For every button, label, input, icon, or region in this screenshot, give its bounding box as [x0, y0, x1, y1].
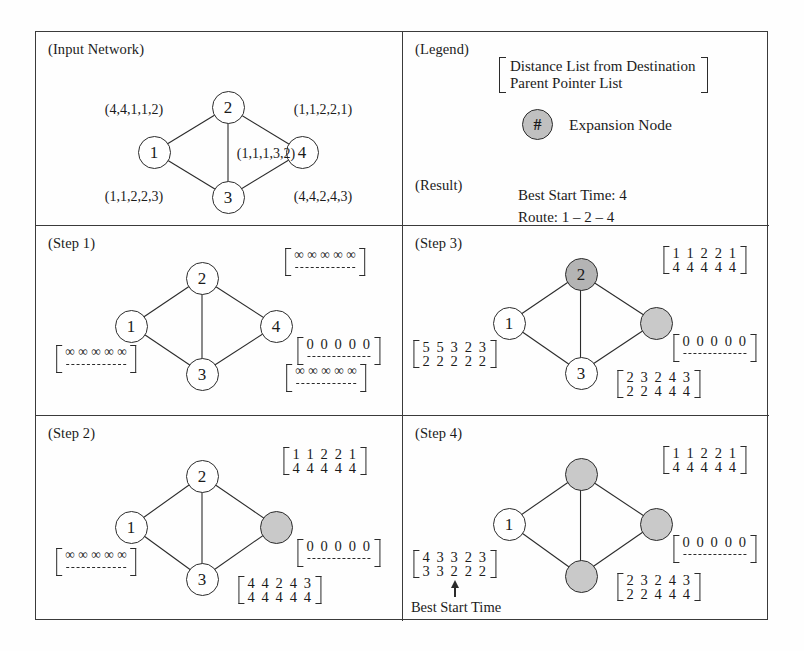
- matrix-rows: ∞ ∞ ∞ ∞ ∞: [62, 345, 130, 373]
- parent-row: [65, 359, 127, 373]
- step-4-node-2[interactable]: [565, 458, 598, 491]
- matrix-rows: 0 0 0 0 0: [303, 539, 374, 567]
- bracket-right: [361, 447, 367, 475]
- distance-row: 4 3 3 2 3: [422, 550, 487, 564]
- panel-title-legend: (Legend): [415, 41, 469, 58]
- step-4-list-node-2: 1 1 2 2 1 4 4 4 4 4: [663, 446, 746, 474]
- parent-row: 4 4 4 4 4: [672, 260, 737, 274]
- step-1-list-node-4: 0 0 0 0 0: [297, 337, 380, 365]
- step-3-node-1[interactable]: 1: [493, 307, 526, 340]
- edge-label-1-2: (4,4,1,1,2): [105, 102, 163, 118]
- step-3-list-node-4: 0 0 0 0 0: [673, 334, 756, 362]
- distance-row: 0 0 0 0 0: [306, 539, 371, 553]
- step-1-node-2[interactable]: 2: [186, 262, 219, 295]
- step-1-list-node-1: ∞ ∞ ∞ ∞ ∞: [56, 345, 136, 373]
- distance-row: 2 3 2 4 3: [626, 573, 691, 587]
- bracket-right: [741, 246, 747, 274]
- matrix-rows: ∞ ∞ ∞ ∞ ∞: [62, 548, 130, 576]
- network-node-3[interactable]: 3: [212, 181, 245, 214]
- distance-row: 0 0 0 0 0: [682, 334, 747, 348]
- bracket-right: [751, 334, 757, 362]
- distance-row: ∞ ∞ ∞ ∞ ∞: [65, 345, 127, 359]
- bracket-right: [701, 57, 708, 93]
- step-2-node-3[interactable]: 3: [186, 563, 219, 596]
- step-2-list-node-1: ∞ ∞ ∞ ∞ ∞: [56, 548, 136, 576]
- step-1-list-node-2: ∞ ∞ ∞ ∞ ∞: [285, 248, 365, 276]
- step-4-node-1[interactable]: 1: [493, 508, 526, 541]
- distance-row: 2 3 2 4 3: [626, 370, 691, 384]
- step-1-node-4[interactable]: 4: [260, 310, 293, 343]
- matrix-rows: 0 0 0 0 0: [679, 334, 750, 362]
- result-best-start-time: Best Start Time: 4: [518, 184, 627, 206]
- step-2-graph: 1 2 3 1 1 2 2 1 4 4 4 4 4 ∞ ∞ ∞ ∞ ∞: [36, 416, 402, 621]
- parent-row: [306, 553, 371, 567]
- step-2-node-1[interactable]: 1: [115, 511, 148, 544]
- bracket-right: [316, 576, 322, 604]
- matrix-rows: 4 3 3 2 3 3 3 2 2 2: [419, 550, 490, 578]
- bracket-right: [491, 340, 497, 368]
- parent-row: [294, 262, 356, 276]
- figure-sheet: (Input Network) 1 2 3 4 (4,4,1,1,2) (1,1…: [0, 0, 804, 651]
- parent-row: [682, 549, 747, 563]
- expansion-node-icon: #: [522, 109, 553, 140]
- network-node-1[interactable]: 1: [138, 136, 171, 169]
- step-4-node-3[interactable]: [565, 560, 598, 593]
- distance-row: 1 1 2 2 1: [672, 246, 737, 260]
- parent-row: 2 2 2 2 2: [422, 354, 487, 368]
- step-4-list-node-4: 0 0 0 0 0: [673, 535, 756, 563]
- bracket-right: [695, 573, 701, 601]
- step-1-list-node-3: ∞ ∞ ∞ ∞ ∞: [286, 364, 366, 392]
- legend-bracket: Distance List from Destination Parent Po…: [499, 57, 708, 93]
- step-1-graph: 1 2 3 4 ∞ ∞ ∞ ∞ ∞ ∞ ∞ ∞ ∞: [36, 226, 402, 415]
- matrix-rows: 2 3 2 4 3 2 2 4 4 4: [623, 370, 694, 398]
- bracket-left: [499, 57, 506, 93]
- parent-row: [682, 348, 747, 362]
- bracket-right: [360, 364, 366, 392]
- step-4-node-4[interactable]: [640, 508, 673, 541]
- matrix-rows: 0 0 0 0 0: [303, 337, 374, 365]
- parent-row: 2 2 4 4 4: [626, 384, 691, 398]
- matrix-rows: ∞ ∞ ∞ ∞ ∞: [292, 364, 360, 392]
- step-4-graph: 1 1 1 2 2 1 4 4 4 4 4 4 3 3 2 3: [403, 416, 769, 621]
- step-3-node-4[interactable]: [640, 307, 673, 340]
- step-4-list-node-1: 4 3 3 2 3 3 3 2 2 2: [413, 550, 496, 578]
- panel-title-result: (Result): [415, 177, 463, 194]
- bracket-right: [375, 539, 381, 567]
- step-3-list-node-2: 1 1 2 2 1 4 4 4 4 4: [663, 246, 746, 274]
- step-2-node-4[interactable]: [260, 511, 293, 544]
- parent-row: [306, 351, 371, 365]
- edge-label-3-4: (4,4,2,4,3): [294, 189, 352, 205]
- distance-row: ∞ ∞ ∞ ∞ ∞: [295, 364, 357, 378]
- matrix-rows: 1 1 2 2 1 4 4 4 4 4: [669, 246, 740, 274]
- best-start-time-annotation: Best Start Time: [411, 599, 501, 616]
- parent-row: 2 2 4 4 4: [626, 587, 691, 601]
- legend-lines: Distance List from Destination Parent Po…: [506, 57, 701, 93]
- input-network-graph: 1 2 3 4 (4,4,1,1,2) (1,1,2,2,1) (1,1,1,3…: [36, 32, 402, 225]
- step-1-node-3[interactable]: 3: [186, 358, 219, 391]
- edge-label-2-3: (1,1,1,3,2): [237, 146, 295, 162]
- arrow-stem: [454, 587, 456, 597]
- matrix-rows: 1 1 2 2 1 4 4 4 4 4: [289, 447, 360, 475]
- result-route: Route: 1 – 2 – 4: [518, 206, 627, 225]
- step-3-node-3[interactable]: 3: [565, 357, 598, 390]
- legend-expansion-node-label: Expansion Node: [569, 116, 672, 134]
- legend-bracket-block: Distance List from Destination Parent Po…: [499, 57, 708, 97]
- step-3-node-2[interactable]: 2: [565, 258, 598, 291]
- bracket-right: [130, 345, 136, 373]
- legend-parent-pointer-label: Parent Pointer List: [510, 75, 695, 92]
- parent-row: 4 4 4 4 4: [672, 460, 737, 474]
- step-4-list-node-3: 2 3 2 4 3 2 2 4 4 4: [617, 573, 700, 601]
- distance-row: 0 0 0 0 0: [682, 535, 747, 549]
- step-3-graph: 1 2 3 1 1 2 2 1 4 4 4 4 4 5 5 3 2 3: [403, 226, 769, 415]
- step-2-node-2[interactable]: 2: [186, 460, 219, 493]
- panel-grid: (Input Network) 1 2 3 4 (4,4,1,1,2) (1,1…: [35, 31, 768, 620]
- matrix-rows: 1 1 2 2 1 4 4 4 4 4: [669, 446, 740, 474]
- network-node-2[interactable]: 2: [212, 91, 245, 124]
- panel-step-2: (Step 2) 1 2 3 1 1 2 2 1 4 4 4: [36, 415, 402, 621]
- parent-row: [65, 562, 127, 576]
- edge-label-1-3: (1,1,2,2,3): [105, 189, 163, 205]
- step-1-node-1[interactable]: 1: [115, 310, 148, 343]
- distance-row: 1 1 2 2 1: [292, 447, 357, 461]
- matrix-rows: 0 0 0 0 0: [679, 535, 750, 563]
- bracket-right: [695, 370, 701, 398]
